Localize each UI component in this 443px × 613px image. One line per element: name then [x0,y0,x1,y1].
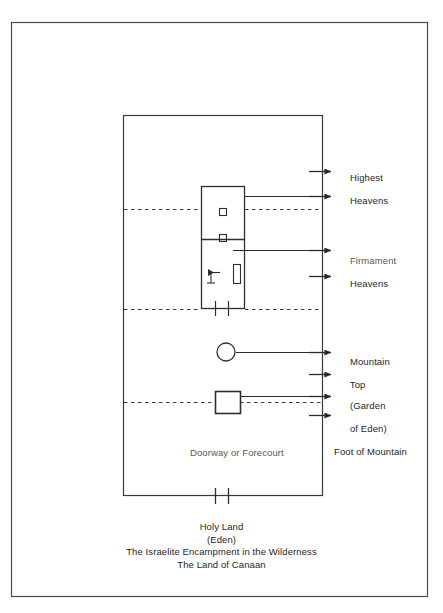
diagram-canvas: Highest Heavens Firmament Heavens Mounta… [0,0,443,613]
label-garden-of-eden: (Garden of Eden) [339,388,387,446]
label-doorway-or-forecourt: Doorway or Forecourt [190,447,284,459]
tabernacle-box [202,187,245,309]
inner-rectangle-holy-land [124,116,323,496]
label-highest-heavens-line1: Highest [350,172,383,183]
caption-line-1: Holy Land [0,521,443,534]
label-highest-heavens: Highest Heavens [339,160,388,218]
label-firmament-heavens-line1: Firmament [350,255,396,266]
label-firmament-heavens: Firmament Heavens [339,243,396,301]
ark-square-lower [220,235,227,242]
label-mountain-top-line1: Mountain [350,356,390,367]
lampstand-icon [207,269,220,283]
outer-frame [12,23,428,597]
ark-square-upper [220,209,227,216]
caption-line-2: (Eden) [0,534,443,547]
arrow-group [309,172,331,416]
eden-box [216,392,241,414]
label-firmament-heavens-line2: Heavens [350,278,388,289]
label-highest-heavens-line2: Heavens [350,195,388,206]
label-garden-of-eden-line2: of Eden) [350,423,387,434]
label-garden-of-eden-line1: (Garden [350,400,386,411]
caption-line-4: The Land of Canaan [0,559,443,572]
figure-caption: Holy Land (Eden) The Israelite Encampmen… [0,521,443,571]
table-rectangle [234,265,241,284]
mountain-top-circle [217,343,235,361]
label-foot-of-mountain: Foot of Mountain [334,446,407,458]
caption-line-3: The Israelite Encampment in the Wilderne… [0,546,443,559]
